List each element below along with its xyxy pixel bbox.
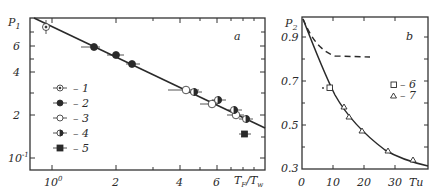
legend-entry-3: – 3 [73,112,89,125]
legend-entry-2: – 2 [73,97,89,110]
panel-a-label: a [234,30,241,43]
panel-a-frame [30,18,265,170]
panel-a-ytick: 6 [13,40,20,53]
panel-a: P1 6 4 2 10-1 100 2 4 6 TF/Tw a [7,16,265,189]
panel-a-fit-line [34,18,265,128]
panel-b-xlabel: Tu [409,176,423,189]
panel-b-xtick: 30 [388,176,402,189]
panel-a-ytick-exp: 10-1 [8,151,29,165]
panel-b: P2 0.9 0.7 0.5 0.3 0 10 20 30 Tu b – 6 –… [281,17,428,189]
legend-entry-1: – 1 [73,82,89,95]
legend-entry-4: – 4 [73,127,89,140]
panel-b-ytick: 0.9 [281,31,299,44]
panel-b-label: b [406,30,413,43]
panel-a-xtick-exp: 100 [44,175,63,189]
legend-entry-5: – 5 [73,142,89,155]
panel-b-ytick: 0.7 [281,75,299,88]
panel-a-ylabel: P1 [7,16,21,31]
panel-b-ylabel: P2 [284,17,298,32]
panel-a-ytick: 2 [12,109,20,122]
panel-b-xtick: 20 [356,176,371,189]
panel-a-ytick: 4 [12,66,20,79]
panel-a-legend: – 1 – 2 – 3 – 4 – 5 [53,82,89,155]
legend-entry-7: – 7 [400,89,416,102]
panel-a-xlabel: TF/Tw [234,174,263,189]
panel-b-legend: – 6 – 7 [391,78,417,102]
panel-b-ytick: 0.3 [281,162,299,175]
panel-a-xtick: 2 [111,176,119,189]
figure: P1 6 4 2 10-1 100 2 4 6 TF/Tw a [0,0,438,195]
panel-a-xtick: 4 [175,176,183,189]
panel-b-xtick: 10 [326,176,340,189]
panel-b-ytick: 0.5 [281,119,299,132]
panel-b-xtick: 0 [298,176,305,189]
panel-a-xtick: 6 [213,176,220,189]
panel-a-ticks [30,18,265,170]
panel-b-dashed-curve [303,19,370,57]
